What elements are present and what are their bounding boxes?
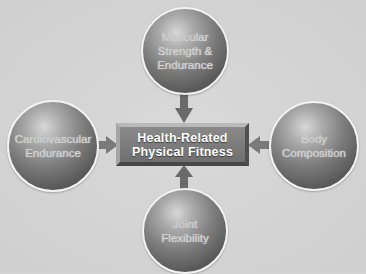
sphere-cardiovascular-endurance: Cardiovascular Endurance — [7, 100, 99, 192]
center-title: Health-Related Physical Fitness — [132, 131, 233, 159]
arrow-top-to-center-icon — [175, 92, 193, 124]
arrow-right-to-center-icon — [248, 136, 270, 154]
sphere-muscular-strength-endurance: Muscular Strength & Endurance — [141, 7, 229, 95]
muscular-strength-endurance-label: Muscular Strength & Endurance — [157, 30, 213, 72]
health-related-fitness-box: Health-Related Physical Fitness — [116, 123, 249, 166]
joint-flexibility-label: Joint Flexibility — [161, 217, 208, 245]
sphere-body-composition: Body Composition — [269, 101, 359, 191]
cardiovascular-endurance-label: Cardiovascular Endurance — [15, 132, 92, 160]
arrow-bottom-to-center-icon — [175, 165, 193, 189]
arrow-left-to-center-icon — [96, 136, 118, 154]
sphere-joint-flexibility: Joint Flexibility — [142, 188, 228, 274]
body-composition-label: Body Composition — [282, 132, 346, 160]
